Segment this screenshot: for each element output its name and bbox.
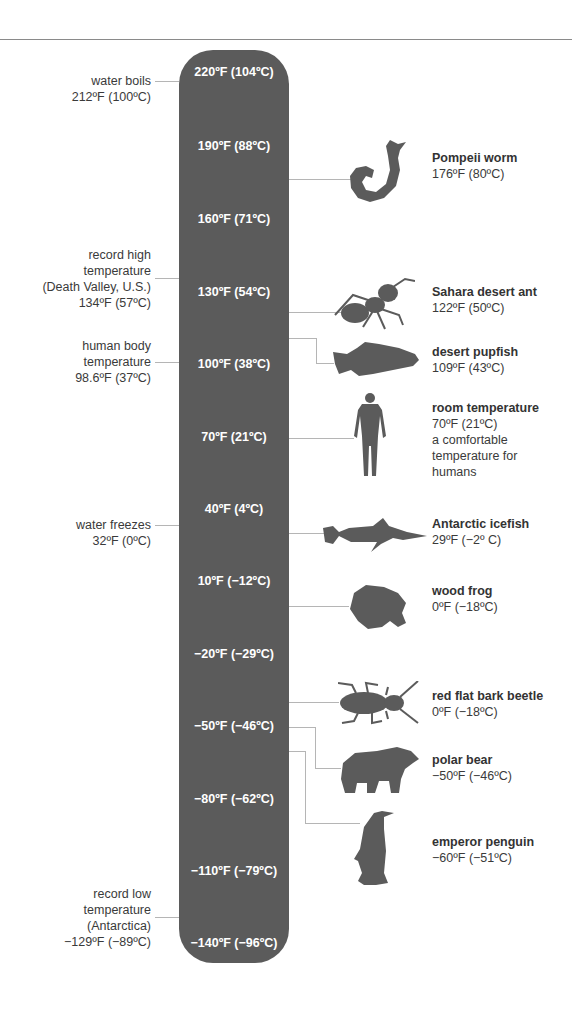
note-human-body: human body temperature 98.6ºF (37ºC) [75, 338, 151, 386]
tick-label: 190ºF (88ºC) [179, 139, 289, 153]
worm-connector [289, 179, 351, 180]
tick-label: −20ºF (−29ºC) [179, 647, 289, 661]
polar-bear-connector-h2 [315, 768, 341, 769]
organism-pompeii-worm: Pompeii worm 176ºF (80ºC) [432, 150, 517, 182]
note-record-high: record high temperature (Death Valley, U… [42, 247, 151, 311]
tick-label: −80ºF (−62ºC) [179, 792, 289, 806]
organism-emperor-penguin: emperor penguin −60ºF (−51ºC) [432, 834, 534, 866]
icefish-connector [289, 533, 325, 534]
tick-label: 10ºF (−12ºC) [179, 574, 289, 588]
tick-label: 70ºF (21ºC) [179, 430, 289, 444]
tick-label: −50ºF (−46ºC) [179, 719, 289, 733]
top-divider [0, 39, 572, 40]
organism-desert-pupfish: desert pupfish 109ºF (43ºC) [432, 344, 518, 376]
note-record-low: record low temperature (Antarctica) −129… [64, 886, 151, 950]
water-freezes-connector [155, 525, 179, 526]
polar-bear-connector [289, 727, 315, 728]
tick-label: 220ºF (104ºC) [179, 65, 289, 79]
human-connector [289, 438, 354, 439]
tick-label: 40ºF (4ºC) [179, 502, 289, 516]
organism-red-flat-bark-beetle: red flat bark beetle 0ºF (−18ºC) [432, 688, 543, 720]
beetle-connector [289, 702, 339, 703]
human-icon [352, 392, 388, 478]
frog-connector [289, 606, 349, 607]
pupfish-connector-h2 [316, 363, 334, 364]
beetle-icon [338, 681, 422, 725]
penguin-connector-h2 [305, 823, 360, 824]
water-boils-connector [155, 81, 179, 82]
tick-label: 160ºF (71ºC) [179, 212, 289, 226]
worm-icon [348, 138, 408, 208]
tick-label: 130ºF (54ºC) [179, 285, 289, 299]
tick-label: 100ºF (38ºC) [179, 357, 289, 371]
record-high-connector [155, 278, 179, 279]
penguin-icon [354, 811, 396, 887]
organism-room-temperature: room temperature 70ºF (21ºC) a comfortab… [432, 400, 539, 480]
note-water-freezes: water freezes 32ºF (0ºC) [76, 517, 151, 549]
organism-polar-bear: polar bear −50ºF (−46ºC) [432, 752, 512, 784]
penguin-connector-v [305, 751, 306, 823]
pupfish-connector [289, 338, 316, 339]
icefish-icon [323, 514, 427, 554]
organism-wood-frog: wood frog 0ºF (−18ºC) [432, 583, 498, 615]
human-body-connector [155, 362, 179, 363]
organism-antarctic-icefish: Antarctic icefish 29ºF (−2º C) [432, 516, 529, 548]
frog-icon [348, 583, 410, 631]
polar-bear-connector-v [315, 727, 316, 768]
ant-icon [333, 275, 415, 330]
pupfish-connector-v [316, 338, 317, 363]
record-low-connector [155, 917, 179, 918]
polar-bear-icon [339, 745, 421, 795]
penguin-connector [289, 751, 305, 752]
tick-label: −110ºF (−79ºC) [179, 864, 289, 878]
pupfish-icon [333, 342, 421, 378]
note-water-boils: water boils 212ºF (100ºC) [72, 73, 151, 105]
tick-label: −140ºF (−96ºC) [179, 936, 289, 950]
organism-sahara-desert-ant: Sahara desert ant 122ºF (50ºC) [432, 284, 537, 316]
